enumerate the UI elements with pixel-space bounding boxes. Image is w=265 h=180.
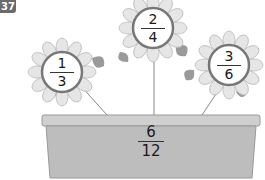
fraction-flower-middle: 2 4 <box>133 12 173 45</box>
numerator: 6 <box>131 124 171 140</box>
numerator: 2 <box>133 12 173 27</box>
numerator: 1 <box>42 56 82 71</box>
numerator: 3 <box>209 49 249 64</box>
fraction-pot: 6 12 <box>131 124 171 159</box>
denominator: 12 <box>131 143 171 159</box>
leaf-right <box>184 70 194 81</box>
fraction-flower-right: 3 6 <box>209 49 249 82</box>
denominator: 6 <box>209 67 249 82</box>
denominator: 3 <box>42 74 82 89</box>
leaf-left <box>92 56 104 68</box>
denominator: 4 <box>133 30 173 45</box>
fraction-flower-left: 1 3 <box>42 56 82 89</box>
leaf-middle-left <box>118 52 128 62</box>
